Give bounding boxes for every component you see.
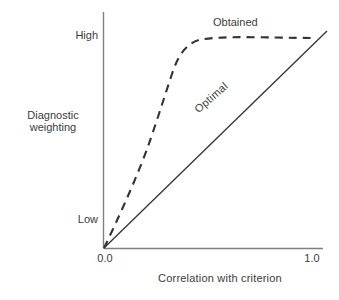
x-tick-label-zero: 0.0 (93, 252, 117, 264)
y-tick-label-low: Low (64, 213, 98, 225)
y-tick-label-high: High (64, 29, 98, 41)
y-axis-title-line2: weighting (30, 121, 76, 133)
plot-area (0, 0, 339, 300)
y-axis-title-line1: Diagnostic (27, 109, 78, 121)
x-tick-label-one: 1.0 (300, 252, 324, 264)
series-line-obtained (104, 37, 311, 248)
series-label-obtained: Obtained (213, 16, 258, 28)
chart-figure: Diagnosticweighting High Low 0.0 1.0 Cor… (0, 0, 339, 300)
x-axis-title: Correlation with criterion (140, 272, 300, 284)
y-axis-title: Diagnosticweighting (10, 109, 96, 133)
series-line-optimal (104, 31, 327, 248)
